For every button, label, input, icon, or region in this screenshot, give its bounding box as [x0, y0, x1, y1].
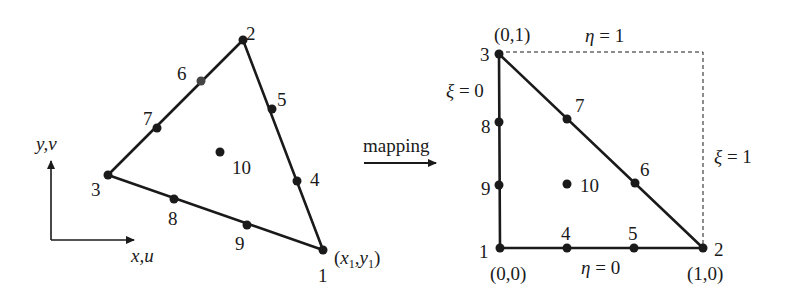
node-1-coordinate-label: (x1,y1): [334, 247, 380, 271]
ref-node-label-10: 10: [580, 175, 599, 196]
node-label-6: 6: [177, 63, 187, 84]
physical-node-labels: 1 2 3 4 5 6 7 8 9 10: [91, 23, 328, 286]
node-10: [216, 148, 225, 157]
mapping-arrow-group: mapping: [363, 135, 436, 163]
node-4: [293, 177, 302, 186]
ref-node-8: [495, 118, 504, 127]
edge-label-xi-1: ξ = 1: [714, 146, 752, 167]
edge-label-eta-1: η = 1: [585, 25, 624, 46]
ref-node-label-8: 8: [481, 116, 491, 137]
node-label-1: 1: [318, 265, 328, 286]
node-label-7: 7: [143, 108, 153, 129]
ref-coord-node2: (1,0): [687, 263, 723, 285]
ref-node-label-1: 1: [479, 241, 489, 262]
node-1: [319, 246, 328, 255]
node-5: [268, 105, 277, 114]
physical-element: y,v x,u 1 2 3 4 5 6 7 8 9: [34, 23, 380, 286]
node-label-3: 3: [91, 179, 101, 200]
ref-coord-origin: (0,0): [490, 263, 526, 285]
ref-node-5: [630, 244, 639, 253]
x-axis-label: x,u: [130, 245, 154, 266]
node-3: [104, 171, 113, 180]
node-7: [153, 124, 162, 133]
edge-label-eta-0: η = 0: [581, 257, 620, 278]
node-6: [197, 77, 206, 86]
physical-triangle: [108, 40, 323, 250]
ref-node-label-7: 7: [575, 95, 585, 116]
ref-node-3: [495, 50, 504, 59]
node-label-2: 2: [246, 23, 256, 44]
ref-node-2: [699, 244, 708, 253]
ref-node-6: [631, 179, 640, 188]
ref-node-label-3: 3: [480, 44, 490, 65]
mapping-label: mapping: [363, 135, 430, 156]
ref-node-label-5: 5: [628, 223, 638, 244]
node-label-5: 5: [277, 89, 287, 110]
ref-node-7: [563, 115, 572, 124]
node-label-9: 9: [235, 233, 245, 254]
ref-coord-node3: (0,1): [494, 24, 530, 46]
element-mapping-diagram: y,v x,u 1 2 3 4 5 6 7 8 9: [0, 0, 785, 299]
ref-node-label-2: 2: [714, 239, 724, 260]
reference-triangle: [499, 54, 703, 248]
ref-node-4: [563, 244, 572, 253]
ref-node-label-6: 6: [640, 159, 650, 180]
ref-node-10: [563, 180, 572, 189]
y-axis-label: y,v: [34, 133, 57, 154]
ref-node-1: [496, 244, 505, 253]
node-9: [243, 221, 252, 230]
node-label-8: 8: [168, 208, 178, 229]
ref-node-9: [495, 181, 504, 190]
edge-label-xi-0: ξ = 0: [446, 80, 484, 101]
node-8: [170, 195, 179, 204]
ref-node-label-4: 4: [561, 223, 571, 244]
node-label-4: 4: [310, 169, 320, 190]
reference-element: 1 2 3 4 5 6 7 8 9 10 (0,0) (1,0) (0,1) η…: [446, 24, 752, 285]
node-label-10: 10: [232, 157, 251, 178]
ref-node-label-9: 9: [481, 178, 491, 199]
